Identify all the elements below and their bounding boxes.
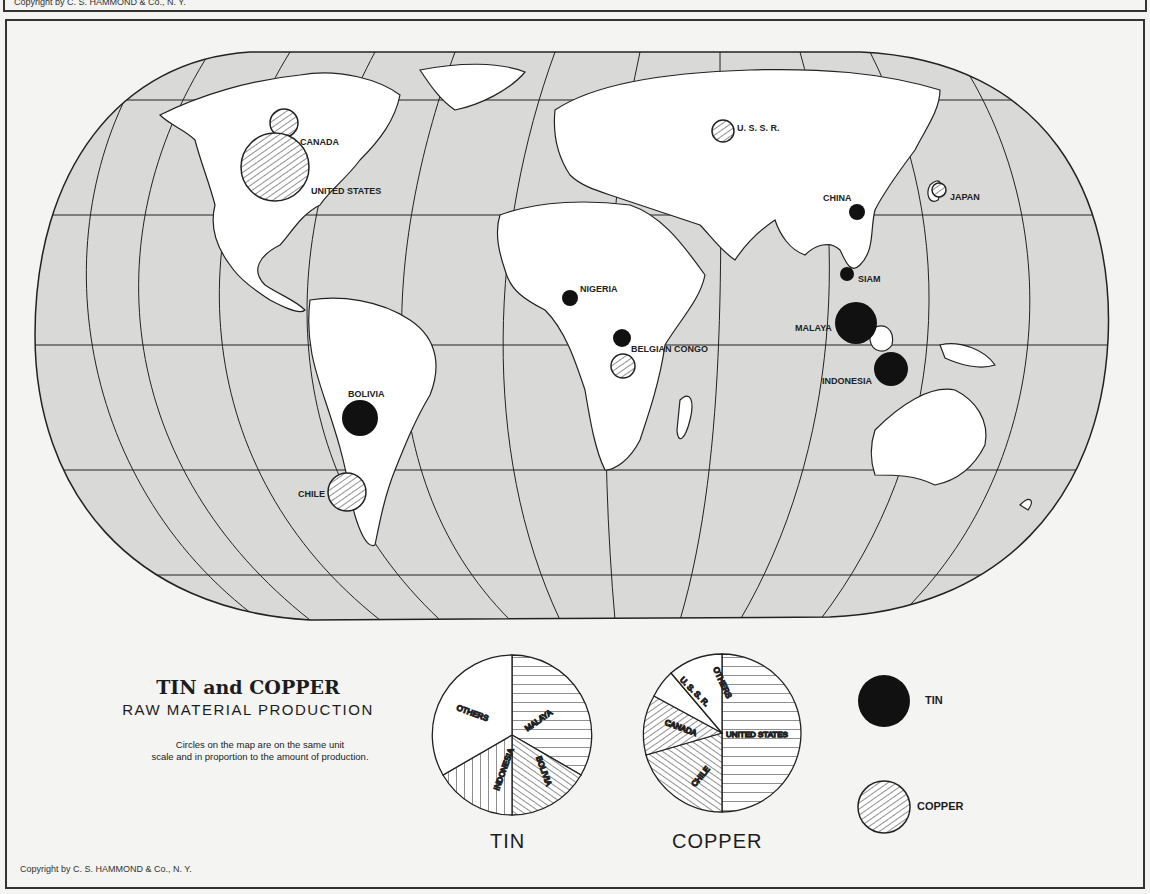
marker-us-copper: [241, 133, 309, 201]
copper-pie-caption: COPPER: [672, 830, 762, 853]
marker-malaya-tin: [835, 302, 877, 344]
marker-chile-copper: [328, 473, 366, 511]
marker-bolivia-tin: [342, 400, 378, 436]
label-chile: CHILE: [298, 489, 325, 499]
label-bolivia: BOLIVIA: [348, 389, 385, 399]
marker-congo-tin: [613, 329, 631, 347]
copper-label-us: UNITED STATES: [726, 730, 788, 739]
label-ussr: U. S. S. R.: [737, 123, 780, 133]
label-indonesia: INDONESIA: [822, 376, 873, 386]
legend-copper-label: COPPER: [917, 800, 963, 812]
label-canada: CANADA: [300, 137, 339, 147]
label-china: CHINA: [823, 193, 852, 203]
bottom-copyright: Copyright by C. S. HAMMOND & Co., N. Y.: [20, 864, 192, 874]
map-subtitle: RAW MATERIAL PRODUCTION: [118, 701, 378, 718]
map-title: TIN and COPPER: [118, 676, 378, 698]
label-united-states: UNITED STATES: [311, 186, 381, 196]
label-siam: SIAM: [858, 274, 881, 284]
label-malaya: MALAYA: [795, 323, 832, 333]
tin-pie-chart: MALAYA BOLIVIA INDONESIA OTHERS: [432, 655, 591, 815]
label-japan: JAPAN: [950, 192, 980, 202]
marker-ussr-copper: [712, 120, 734, 142]
legend-tin-symbol: [858, 675, 910, 727]
legend-copper-symbol: [858, 781, 910, 833]
label-nigeria: NIGERIA: [580, 284, 618, 294]
marker-indonesia-tin: [874, 352, 908, 386]
marker-nigeria-tin: [562, 290, 578, 306]
map-note: Circles on the map are on the same unit …: [100, 739, 420, 763]
note-line-2: scale and in proportion to the amount of…: [100, 751, 420, 763]
note-line-1: Circles on the map are on the same unit: [100, 739, 420, 751]
label-belgian-congo: BELGIAN CONGO: [631, 344, 708, 354]
marker-congo-copper: [611, 354, 635, 378]
tin-pie-caption: TIN: [490, 830, 525, 853]
marker-siam-tin: [840, 267, 854, 281]
legend-tin-label: TIN: [925, 694, 943, 706]
marker-china-tin: [849, 204, 865, 220]
marker-japan-copper: [932, 183, 946, 197]
copper-pie-chart: UNITED STATES CHILE CANADA U. S. S. R. O…: [644, 654, 801, 812]
